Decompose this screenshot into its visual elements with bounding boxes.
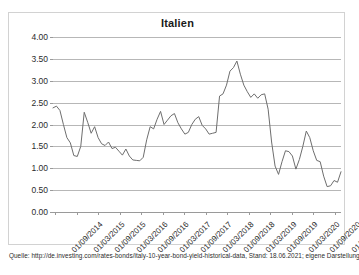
y-axis-label: 0.50 (31, 185, 48, 195)
chart-frame: Italien 0.000.501.001.502.002.503.003.50… (8, 12, 345, 245)
x-axis-tick (292, 212, 293, 215)
x-axis-tick (98, 212, 99, 215)
chart-title: Italien (9, 17, 346, 29)
y-axis-label: 3.50 (31, 54, 48, 64)
x-axis-tick (77, 212, 78, 215)
y-axis-label: 2.00 (31, 120, 48, 130)
x-axis-tick (141, 212, 142, 215)
x-axis-tick (163, 212, 164, 215)
y-axis-label: 4.00 (31, 32, 48, 42)
y-axis-label: 1.50 (31, 141, 48, 151)
y-axis-label: 0.00 (31, 207, 48, 217)
x-axis-baseline (53, 212, 341, 213)
y-axis-tick (50, 212, 53, 213)
x-axis-tick (227, 212, 228, 215)
series-polyline (53, 61, 341, 187)
x-axis-tick (313, 212, 314, 215)
x-axis-tick (55, 212, 56, 215)
x-axis-tick (206, 212, 207, 215)
y-axis-label: 3.00 (31, 76, 48, 86)
plot-area: 0.000.501.001.502.002.503.003.504.00 01/… (53, 37, 341, 212)
x-axis-tick (249, 212, 250, 215)
chart-page: Italien 0.000.501.001.502.002.503.003.50… (0, 0, 359, 275)
x-axis-tick (120, 212, 121, 215)
series-line-chart (53, 37, 341, 212)
x-axis-tick (270, 212, 271, 215)
x-axis-tick (335, 212, 336, 215)
source-note: Quelle: http://de.investing.com/rates-bo… (9, 252, 354, 259)
x-axis-tick (184, 212, 185, 215)
y-axis-label: 1.00 (31, 163, 48, 173)
y-axis-label: 2.50 (31, 98, 48, 108)
